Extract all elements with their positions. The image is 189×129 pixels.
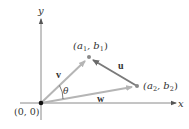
point-a1-b1 bbox=[87, 55, 91, 59]
vector-u bbox=[93, 60, 137, 86]
y-axis-label: y bbox=[37, 5, 44, 16]
origin-label: (0, 0) bbox=[14, 106, 40, 117]
vector-v-label: v bbox=[56, 69, 61, 80]
angle-theta-label: θ bbox=[63, 86, 69, 96]
x-axis-label: x bbox=[178, 98, 184, 109]
vector-u-label: u bbox=[118, 60, 124, 71]
vector-diagram: x y θ v w u (a1, b1) (a2, b2) (0, 0) bbox=[0, 0, 189, 129]
point-a2-b2 bbox=[135, 84, 139, 88]
point-a2-b2-label: (a2, b2) bbox=[143, 80, 178, 93]
vector-w-label: w bbox=[97, 93, 105, 104]
point-a1-b1-label: (a1, b1) bbox=[73, 40, 108, 53]
origin-point bbox=[39, 101, 44, 106]
